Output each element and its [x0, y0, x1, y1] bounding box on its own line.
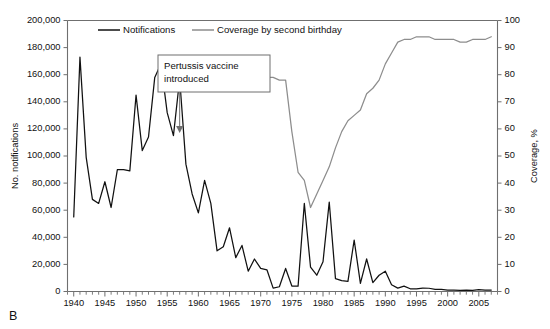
y-axis-left-tick-label: 140,000 [27, 96, 61, 106]
y-axis-left-tick-label: 160,000 [27, 69, 61, 79]
legend-label-coverage: Coverage by second birthday [217, 24, 342, 35]
x-axis-tick-label: 1985 [344, 298, 365, 308]
y-axis-left-title: No. notifications [10, 123, 20, 189]
y-axis-right-tick-label: 10 [505, 259, 515, 269]
y-axis-left-tick-label: 20,000 [32, 259, 60, 269]
y-axis-left-tick-label: 0 [55, 286, 60, 296]
y-axis-right-tick-label: 50 [505, 150, 515, 160]
y-axis-right-tick-label: 30 [505, 205, 515, 215]
panel-label: B [9, 309, 17, 323]
series-line-coverage [242, 37, 491, 208]
annotation-line-1: Pertussis vaccine [164, 60, 239, 71]
x-axis-tick-label: 1975 [282, 298, 303, 308]
y-axis-right-tick-label: 0 [505, 286, 510, 296]
x-axis-tick-label: 1940 [63, 298, 84, 308]
annotation-line-2: introduced [164, 73, 209, 84]
y-axis-right-tick-label: 90 [505, 42, 515, 52]
x-axis-tick-label: 1990 [375, 298, 396, 308]
x-axis-tick-label: 1995 [406, 298, 427, 308]
y-axis-left-tick-label: 60,000 [32, 205, 60, 215]
y-axis-left-tick-label: 180,000 [27, 42, 61, 52]
y-axis-right-tick-label: 80 [505, 69, 515, 79]
pertussis-notifications-coverage-chart: 020,00040,00060,00080,000100,000120,0001… [0, 0, 550, 329]
y-axis-left-tick-label: 40,000 [32, 232, 60, 242]
annotation-arrow-head [176, 126, 183, 133]
y-axis-left-tick-label: 120,000 [27, 123, 61, 133]
y-axis-left-tick-label: 200,000 [27, 15, 61, 25]
legend-label-notifications: Notifications [123, 24, 175, 35]
y-axis-right-tick-label: 60 [505, 123, 515, 133]
x-axis-tick-label: 1955 [157, 298, 178, 308]
chart-legend: NotificationsCoverage by second birthday [98, 24, 342, 35]
x-axis-tick-label: 1965 [219, 298, 240, 308]
x-axis-tick-label: 1970 [250, 298, 271, 308]
x-axis-tick-label: 2005 [468, 298, 489, 308]
y-axis-right-tick-label: 100 [505, 15, 521, 25]
y-axis-left-tick-label: 80,000 [32, 178, 60, 188]
y-axis-right-tick-label: 20 [505, 232, 515, 242]
chart-canvas: 020,00040,00060,00080,000100,000120,0001… [0, 0, 550, 329]
y-axis-right-tick-label: 70 [505, 96, 515, 106]
y-axis-right-tick-label: 40 [505, 178, 515, 188]
x-axis-tick-label: 1950 [126, 298, 147, 308]
x-axis-tick-label: 2000 [437, 298, 458, 308]
x-axis-tick-label: 1945 [95, 298, 116, 308]
x-axis-tick-label: 1980 [313, 298, 334, 308]
series-line-notifications [74, 57, 492, 290]
x-axis-tick-label: 1960 [188, 298, 209, 308]
y-axis-right-title: Coverage, % [529, 129, 539, 183]
y-axis-left-tick-label: 100,000 [27, 150, 61, 160]
